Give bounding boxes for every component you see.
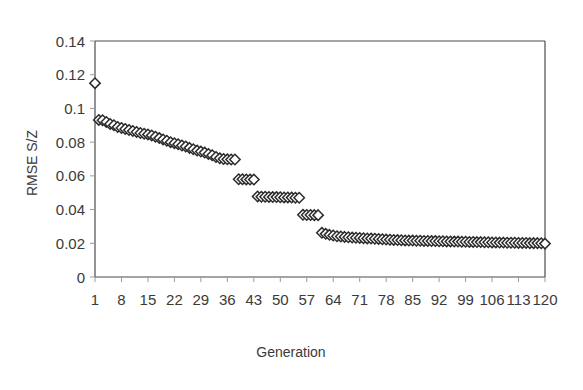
rmse-generation-scatter-chart: 00.020.040.060.080.10.120.14 18152229364… bbox=[0, 0, 583, 390]
x-tick-label: 1 bbox=[91, 291, 99, 308]
x-tick-label: 50 bbox=[272, 291, 289, 308]
x-tick-label: 85 bbox=[404, 291, 421, 308]
y-axis-title: RMSE S/Z bbox=[24, 129, 40, 196]
x-tick-label: 92 bbox=[431, 291, 448, 308]
x-tick-label: 57 bbox=[298, 291, 315, 308]
y-tick-label: 0.02 bbox=[56, 235, 85, 252]
y-tick-label: 0 bbox=[77, 269, 85, 286]
y-tick-label: 0.04 bbox=[56, 201, 85, 218]
x-tick-label: 43 bbox=[245, 291, 262, 308]
x-tick-label: 71 bbox=[351, 291, 368, 308]
x-tick-label: 99 bbox=[457, 291, 474, 308]
x-tick-label: 22 bbox=[166, 291, 183, 308]
y-tick-label: 0.14 bbox=[56, 33, 85, 50]
y-tick-label: 0.1 bbox=[64, 100, 85, 117]
y-tick-label: 0.12 bbox=[56, 66, 85, 83]
chart-figure: 00.020.040.060.080.10.120.14 18152229364… bbox=[0, 0, 583, 390]
x-axis-title: Generation bbox=[256, 344, 325, 360]
x-tick-label: 29 bbox=[193, 291, 210, 308]
x-tick-label: 78 bbox=[378, 291, 395, 308]
y-tick-label: 0.06 bbox=[56, 167, 85, 184]
x-tick-label: 64 bbox=[325, 291, 342, 308]
x-tick-label: 113 bbox=[507, 291, 531, 308]
x-tick-label: 15 bbox=[140, 291, 157, 308]
x-tick-label: 8 bbox=[117, 291, 125, 308]
x-tick-label: 106 bbox=[480, 291, 505, 308]
y-tick-label: 0.08 bbox=[56, 134, 85, 151]
x-tick-label: 36 bbox=[219, 291, 236, 308]
x-tick-label: 120 bbox=[532, 291, 557, 308]
